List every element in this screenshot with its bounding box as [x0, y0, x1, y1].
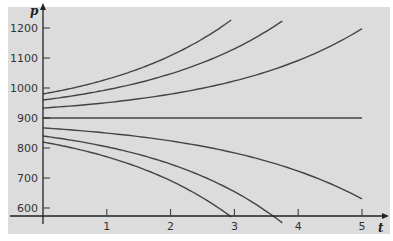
- y-tick-label: 700: [17, 172, 38, 185]
- x-tick-label: 1: [103, 220, 110, 233]
- x-tick-label: 4: [295, 220, 302, 233]
- x-tick-label: 2: [167, 220, 174, 233]
- y-tick-label: 600: [17, 202, 38, 215]
- y-tick-label: 800: [17, 142, 38, 155]
- y-tick-label: 1200: [10, 22, 38, 35]
- x-tick-label: 3: [231, 220, 238, 233]
- y-axis-arrow-icon: [40, 3, 46, 10]
- y-tick-label: 900: [17, 112, 38, 125]
- y-axis-title: p: [30, 4, 39, 18]
- x-tick-label: 5: [359, 220, 366, 233]
- x-axis-title: t: [378, 221, 384, 235]
- y-tick-label: 1100: [10, 52, 38, 65]
- y-tick-label: 1000: [10, 82, 38, 95]
- chart: 12345600700800900100011001200 p t: [0, 0, 393, 241]
